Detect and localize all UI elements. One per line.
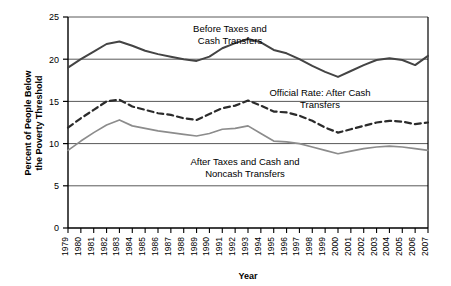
x-tick-label-1998: 1998 [304, 237, 314, 256]
annotation-before-taxes-line1: Before Taxes and [193, 23, 267, 34]
y-tick-label-20: 20 [49, 55, 59, 65]
annotation-official-rate-line2: Transfers [300, 99, 340, 110]
annotation-after-taxes-line2: Noncash Transfers [205, 168, 285, 179]
x-tick-label-1985: 1985 [137, 237, 147, 256]
y-tick-marks [63, 17, 68, 228]
x-tick-label-1980: 1980 [73, 237, 83, 256]
x-tick-label-2002: 2002 [356, 237, 366, 256]
x-tick-label-1990: 1990 [201, 237, 211, 256]
plot-background [68, 17, 428, 228]
y-tick-label-15: 15 [49, 97, 59, 107]
annotation-official-rate-line1: Official Rate: After Cash [269, 87, 370, 98]
x-tick-label-1994: 1994 [253, 237, 263, 256]
x-tick-label-2005: 2005 [394, 237, 404, 256]
x-tick-label-2006: 2006 [407, 237, 417, 256]
annotation-after-taxes: After Taxes and Cash and Noncash Transfe… [190, 156, 299, 179]
x-tick-label-1986: 1986 [150, 237, 160, 256]
x-tick-label-1997: 1997 [291, 237, 301, 256]
annotation-before-taxes-line2: Cash Transfers [198, 35, 263, 46]
x-tick-label-1988: 1988 [176, 237, 186, 256]
y-tick-label-25: 25 [49, 12, 59, 22]
x-tick-label-2001: 2001 [343, 237, 353, 256]
x-tick-label-1995: 1995 [266, 237, 276, 256]
x-tick-label-1989: 1989 [189, 237, 199, 256]
y-tick-label-10: 10 [49, 139, 59, 149]
x-tick-label-1999: 1999 [317, 237, 327, 256]
y-axis-title-line2: the Poverty Threshold [34, 75, 44, 170]
x-tick-label-1979: 1979 [60, 237, 70, 256]
y-axis-title: Percent of People Below the Poverty Thre… [23, 69, 44, 175]
y-axis-title-line1: Percent of People Below [23, 69, 33, 175]
x-tick-labels: 1979198019811982198319841985198619871988… [60, 237, 430, 256]
x-tick-label-1987: 1987 [163, 237, 173, 256]
y-tick-labels: 0510152025 [49, 12, 59, 233]
x-tick-label-2004: 2004 [381, 237, 391, 256]
x-tick-label-2000: 2000 [330, 237, 340, 256]
x-tick-label-1981: 1981 [86, 237, 96, 256]
annotation-after-taxes-line1: After Taxes and Cash and [190, 156, 299, 167]
poverty-rate-chart-figure: 0510152025 19791980198119821983198419851… [0, 0, 451, 286]
x-tick-label-1991: 1991 [214, 237, 224, 256]
x-axis-title: Year [238, 271, 258, 281]
x-tick-label-1984: 1984 [124, 237, 134, 256]
chart-canvas: 0510152025 19791980198119821983198419851… [0, 0, 451, 286]
x-tick-label-2007: 2007 [420, 237, 430, 256]
x-tick-label-1982: 1982 [99, 237, 109, 256]
x-tick-label-1983: 1983 [111, 237, 121, 256]
x-tick-label-2003: 2003 [369, 237, 379, 256]
annotation-before-taxes: Before Taxes and Cash Transfers [193, 23, 267, 46]
x-tick-marks [68, 228, 428, 233]
y-tick-label-5: 5 [54, 181, 59, 191]
x-tick-label-1993: 1993 [240, 237, 250, 256]
y-tick-label-0: 0 [54, 223, 59, 233]
x-tick-label-1996: 1996 [279, 237, 289, 256]
x-tick-label-1992: 1992 [227, 237, 237, 256]
